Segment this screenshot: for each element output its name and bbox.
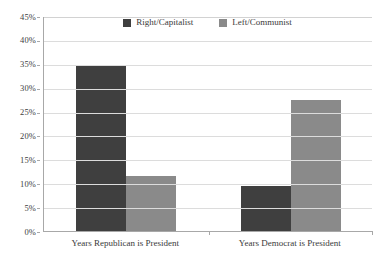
gridline (44, 113, 372, 114)
gridline (44, 136, 372, 137)
y-axis-tick-mark (37, 184, 40, 185)
y-axis-tick-mark (37, 160, 40, 161)
plot-area (43, 17, 372, 232)
y-axis-tick-mark (37, 41, 40, 42)
gridline (44, 184, 372, 185)
x-axis-end-tick (372, 231, 373, 235)
gridline (44, 89, 372, 90)
y-axis-tick-mark (37, 17, 40, 18)
y-axis-tick-label: 10% (2, 180, 36, 189)
x-axis-category-tick (209, 231, 210, 235)
y-axis-tick-mark (37, 65, 40, 66)
gridline (44, 41, 372, 42)
bar-right-capitalist-0 (76, 66, 126, 231)
bar-chart: 0%5%10%15%20%25%30%35%40%45% Right/Capit… (0, 0, 379, 264)
y-axis-tick-mark (37, 232, 40, 233)
y-axis: 0%5%10%15%20%25%30%35%40%45% (0, 0, 40, 264)
y-axis-tick-mark (37, 208, 40, 209)
gridline (44, 65, 372, 66)
bar-left-communist-1 (291, 100, 341, 231)
y-axis-tick-mark (37, 113, 40, 114)
y-axis-tick-label: 0% (2, 228, 36, 237)
gridline (44, 160, 372, 161)
y-axis-tick-label: 20% (2, 132, 36, 141)
gridline (44, 208, 372, 209)
y-axis-tick-mark (37, 89, 40, 90)
y-axis-tick-label: 35% (2, 60, 36, 69)
gridline (44, 17, 372, 18)
y-axis-tick-label: 45% (2, 13, 36, 22)
x-axis-category-label: Years Republican is President (43, 238, 208, 248)
bars-layer (44, 17, 372, 231)
y-axis-tick-mark (37, 136, 40, 137)
y-axis-tick-label: 30% (2, 84, 36, 93)
y-axis-tick-label: 25% (2, 108, 36, 117)
y-axis-tick-label: 15% (2, 156, 36, 165)
x-axis: Years Republican is PresidentYears Democ… (43, 238, 372, 258)
y-axis-tick-label: 40% (2, 36, 36, 45)
x-axis-category-label: Years Democrat is President (208, 238, 373, 248)
y-axis-tick-label: 5% (2, 204, 36, 213)
